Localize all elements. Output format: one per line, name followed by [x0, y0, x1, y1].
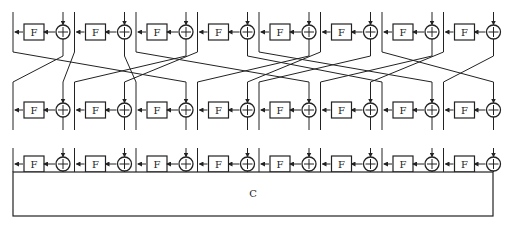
f-label: F [92, 159, 99, 170]
f-label: F [215, 159, 222, 170]
f-label: F [154, 159, 161, 170]
f-label: F [338, 105, 345, 116]
branch-3: F [198, 12, 255, 47]
branch-6: F [382, 90, 439, 130]
feistel-diagram: FFFFFFFFFFFFFFFFFFFFFFFF C [0, 0, 510, 228]
feistel-rows: FFFFFFFFFFFFFFFFFFFFFFFF [13, 12, 501, 172]
branch-1: F [75, 12, 132, 47]
f-label: F [31, 27, 38, 38]
f-label: F [154, 105, 161, 116]
branch-4: F [259, 90, 316, 130]
perm-wire-L1-to-X0 [63, 47, 75, 90]
branch-1: F [75, 148, 132, 172]
f-label: F [92, 105, 99, 116]
f-label: F [400, 27, 407, 38]
branch-0: F [13, 12, 70, 47]
f-label: F [338, 159, 345, 170]
f-label: F [338, 27, 345, 38]
f-label: F [461, 105, 468, 116]
branch-0: F [13, 148, 70, 172]
permutation-wires [13, 47, 494, 90]
f-label: F [400, 159, 407, 170]
branch-7: F [444, 12, 501, 47]
branch-1: F [75, 90, 132, 130]
branch-2: F [136, 12, 193, 47]
perm-wire-X7-to-L7 [444, 47, 494, 90]
branch-4: F [259, 12, 316, 47]
f-label: F [277, 159, 284, 170]
f-label: F [400, 105, 407, 116]
branch-2: F [136, 148, 193, 172]
feistel-row-3: FFFFFFFF [13, 148, 501, 172]
final-block-label: C [249, 188, 257, 199]
f-label: F [31, 105, 38, 116]
f-label: F [215, 105, 222, 116]
branch-3: F [198, 90, 255, 130]
branch-5: F [321, 90, 378, 130]
f-label: F [277, 27, 284, 38]
f-label: F [31, 159, 38, 170]
f-label: F [461, 159, 468, 170]
feistel-row-1: FFFFFFFF [13, 12, 501, 47]
f-label: F [154, 27, 161, 38]
f-label: F [277, 105, 284, 116]
branch-7: F [444, 148, 501, 172]
final-block: C [13, 172, 493, 216]
perm-wire-L6-to-X7 [382, 47, 494, 90]
branch-4: F [259, 148, 316, 172]
branch-3: F [198, 148, 255, 172]
perm-wire-L4-to-X6 [259, 47, 432, 90]
perm-wire-L3-to-X1 [125, 47, 198, 90]
perm-wire-L2-to-X4 [136, 47, 309, 90]
feistel-row-2: FFFFFFFF [13, 90, 501, 130]
branch-5: F [321, 148, 378, 172]
perm-wire-X6-to-L5 [321, 47, 433, 90]
perm-wire-X2-to-L1 [75, 47, 187, 90]
perm-wire-L7-to-X5 [371, 47, 444, 90]
branch-0: F [13, 90, 70, 130]
branch-5: F [321, 12, 378, 47]
branch-2: F [136, 90, 193, 130]
branch-6: F [382, 148, 439, 172]
f-label: F [92, 27, 99, 38]
f-label: F [461, 27, 468, 38]
perm-wire-X4-to-L3 [198, 47, 310, 90]
f-label: F [215, 27, 222, 38]
branch-6: F [382, 12, 439, 47]
branch-7: F [444, 90, 501, 130]
